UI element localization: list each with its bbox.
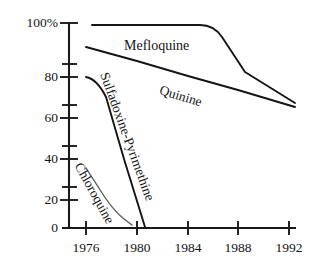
y-tick-label-20: 20	[6, 193, 58, 207]
x-tick-label-1976: 1976	[73, 241, 100, 255]
x-tick-label-1988: 1988	[225, 241, 252, 255]
chart-container: 100% 80 60 40 20 0 1976 1980 1984 1988 1…	[0, 0, 322, 272]
y-tick-label-0: 0	[6, 221, 58, 235]
x-tick-label-1980: 1980	[124, 241, 151, 255]
y-tick-label-100: 100%	[6, 16, 58, 30]
series-label-mefloquine: Mefloquine	[124, 39, 189, 53]
y-axis	[60, 22, 78, 229]
x-axis	[62, 221, 296, 235]
y-tick-label-60: 60	[6, 111, 58, 125]
y-tick-label-80: 80	[6, 70, 58, 84]
x-tick-label-1992: 1992	[276, 241, 303, 255]
y-tick-label-40: 40	[6, 152, 58, 166]
x-tick-label-1984: 1984	[175, 241, 202, 255]
